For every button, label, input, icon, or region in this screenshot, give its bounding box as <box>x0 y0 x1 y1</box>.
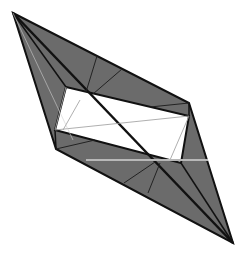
crease-left-vertex <box>55 130 56 149</box>
diagram-canvas <box>0 0 245 254</box>
crease-diagram <box>0 0 245 254</box>
